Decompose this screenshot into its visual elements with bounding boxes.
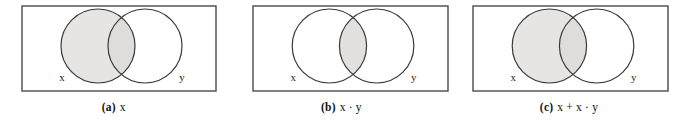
panel-caption-c: (c)x + x · y xyxy=(455,100,683,114)
universe-box-a: x y xyxy=(21,5,217,92)
circle-x-label: x xyxy=(290,71,296,83)
universe-box-b: x y xyxy=(252,5,449,92)
panel-caption-a: (a)x xyxy=(0,100,228,114)
circle-y-label: y xyxy=(631,71,637,83)
venn-svg-c: x y xyxy=(472,5,669,92)
universe-box-c: x y xyxy=(472,5,669,92)
circle-x-label: x xyxy=(59,71,65,83)
caption-expression-a: x xyxy=(120,101,126,113)
caption-label-b: (b) xyxy=(321,101,336,113)
caption-label-a: (a) xyxy=(102,101,116,113)
caption-expression-c: x + x · y xyxy=(557,101,598,113)
panel-caption-b: (b)x · y xyxy=(228,100,456,114)
circle-y-label: y xyxy=(411,71,417,83)
caption-expression-b: x · y xyxy=(340,101,362,113)
venn-panel-a: x y (a)x xyxy=(0,0,228,122)
venn-panel-c: x y (c)x + x · y xyxy=(455,0,683,122)
caption-label-c: (c) xyxy=(540,101,553,113)
circle-y-label: y xyxy=(179,71,185,83)
venn-panel-b: x y (b)x · y xyxy=(228,0,456,122)
venn-diagram-figure: x y (a)x x y (b)x xyxy=(0,0,683,122)
venn-svg-a: x y xyxy=(21,5,217,92)
circle-x-label: x xyxy=(511,71,517,83)
venn-svg-b: x y xyxy=(252,5,449,92)
